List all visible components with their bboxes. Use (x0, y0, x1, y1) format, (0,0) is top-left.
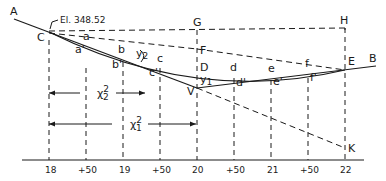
label-G: G (193, 16, 202, 29)
label-A: A (10, 5, 18, 18)
label-f: f (305, 57, 310, 70)
label-H: H (340, 14, 348, 27)
station-22: 22 (340, 165, 351, 175)
station-21-50: +50 (300, 165, 319, 175)
label-y2: y2 (136, 47, 148, 61)
vertical-curve-diagram: A B C El. 348.52 G H F D V E K a b c d e… (0, 0, 386, 181)
label-e: e (268, 62, 275, 75)
label-x1-squared: χ21 (130, 115, 142, 133)
label-a: a (83, 30, 90, 43)
label-V: V (187, 85, 195, 98)
label-B: B (369, 52, 377, 65)
label-a-prime: a' (75, 43, 85, 56)
station-21: 21 (267, 165, 278, 175)
label-C: C (37, 31, 45, 44)
x1-arrowhead-left (49, 122, 55, 127)
label-b-prime: b' (112, 58, 122, 71)
station-18: 18 (45, 165, 57, 175)
x1-arrowhead-right (190, 122, 196, 127)
label-E: E (348, 55, 355, 68)
label-c: c (157, 52, 163, 65)
label-d-prime: d' (236, 76, 246, 89)
station-19-50: +50 (152, 165, 171, 175)
label-F: F (200, 44, 206, 57)
station-18-50: +50 (78, 165, 97, 175)
label-f-prime: f' (310, 71, 317, 84)
label-e-prime: e' (273, 75, 283, 88)
elevation-label: El. 348.52 (60, 15, 105, 25)
label-x2-squared: χ22 (97, 84, 109, 102)
elevation-leader (50, 20, 58, 29)
x2-arrowhead-left (49, 91, 55, 96)
label-K: K (348, 142, 356, 155)
station-20: 20 (192, 165, 204, 175)
label-y1: y1 (200, 73, 212, 87)
x2-arrowhead-right (139, 91, 145, 96)
label-c-prime: c' (149, 66, 158, 79)
label-b: b (118, 43, 125, 56)
tangent-V-B (197, 66, 376, 88)
station-19: 19 (119, 165, 131, 175)
label-d: d (230, 61, 237, 74)
station-20-50: +50 (226, 165, 245, 175)
